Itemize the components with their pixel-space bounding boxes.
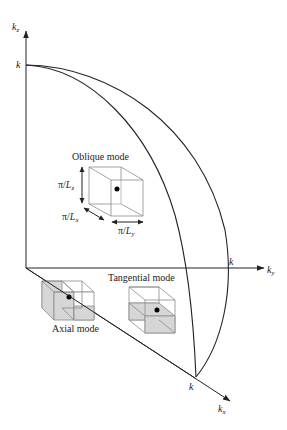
ky-axis-label: ky (267, 265, 275, 277)
diagram-canvas: kz k k ky k kx Oblique mode π/Lz π/Lx π/… (0, 0, 287, 430)
ky-k-label: k (229, 257, 233, 267)
diagram-svg (0, 0, 287, 430)
dim-x-label: π/Lx (62, 212, 79, 224)
tangential-mode-box (129, 287, 175, 333)
oblique-mode-label: Oblique mode (72, 152, 129, 162)
tangential-mode-label: Tangential mode (108, 273, 175, 283)
kz-axis-label: kz (12, 22, 19, 34)
kx-k-label: k (189, 382, 193, 392)
kz-k-label: k (16, 60, 20, 70)
axial-mode-label: Axial mode (52, 324, 99, 334)
kx-axis-label: kx (218, 404, 226, 416)
dim-z-label: π/Lz (58, 180, 74, 192)
oblique-mode-box (89, 167, 143, 216)
dim-y-label: π/Ly (118, 226, 135, 238)
axial-mode-box (42, 281, 94, 320)
